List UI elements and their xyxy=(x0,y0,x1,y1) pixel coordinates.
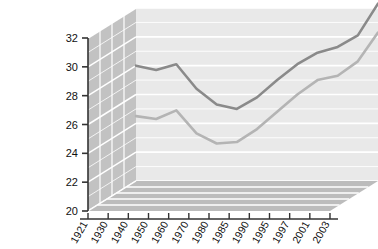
y-tick-label: 32 xyxy=(66,32,78,44)
line-chart-3d: 2022242628303219211930194019501960197019… xyxy=(0,0,378,249)
x-tick-label: 1970 xyxy=(168,219,190,245)
y-tick-label: 24 xyxy=(66,147,78,159)
x-tick-label: 1985 xyxy=(209,219,231,245)
x-tick-label: 1950 xyxy=(128,219,150,245)
y-tick-label: 26 xyxy=(66,119,78,131)
x-tick-label: 1940 xyxy=(108,219,130,245)
chart-container: 2022242628303219211930194019501960197019… xyxy=(0,0,378,249)
x-axis-ticks: 1921193019401950196019701980198519901995… xyxy=(68,213,332,245)
x-tick-label: 1980 xyxy=(189,219,211,245)
y-tick-label: 30 xyxy=(66,61,78,73)
x-tick-label: 1995 xyxy=(249,219,271,245)
x-tick-label: 1997 xyxy=(269,219,291,245)
x-tick-label: 2001 xyxy=(289,219,311,245)
y-tick-label: 20 xyxy=(66,205,78,217)
y-tick-label: 22 xyxy=(66,176,78,188)
y-tick-label: 28 xyxy=(66,90,78,102)
x-tick-label: 1921 xyxy=(68,219,90,245)
x-tick-label: 1990 xyxy=(229,219,251,245)
x-tick-label: 1930 xyxy=(88,219,110,245)
x-tick-label: 1960 xyxy=(148,219,170,245)
x-tick-label: 2003 xyxy=(310,219,332,245)
y-axis-ticks: 20222426283032 xyxy=(66,32,88,217)
floor-plane xyxy=(88,181,378,211)
